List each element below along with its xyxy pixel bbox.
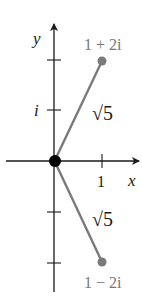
x-tick-label-1: 1 [97,173,105,190]
point-1-minus-2i [98,258,107,267]
segment-length-upper: √5 [92,102,113,124]
x-axis-label: x [127,171,136,190]
complex-plane-diagram: y x i 1 1 + 2i 1 − 2i √5 √5 [0,0,142,304]
segment-length-lower: √5 [92,208,113,230]
y-axis-label: y [31,29,41,48]
point-label-upper: 1 + 2i [84,36,122,53]
point-label-lower: 1 − 2i [84,274,122,291]
origin-point [49,155,61,167]
y-tick-label-i: i [34,101,39,120]
point-1-plus-2i [98,57,107,66]
